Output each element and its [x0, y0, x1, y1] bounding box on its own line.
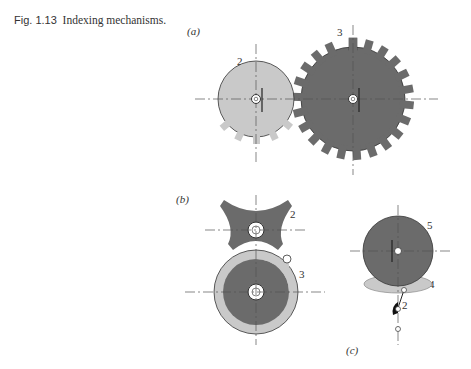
panel-a-gears	[195, 25, 438, 175]
panel-c-ratchet	[350, 205, 450, 345]
mechanism-drawings	[0, 0, 471, 369]
drive-pin	[283, 255, 291, 263]
figure-canvas: Fig. 1.13 Indexing mechanisms. (a) 2 3 (…	[0, 0, 471, 369]
panel-b-geneva	[185, 195, 325, 345]
